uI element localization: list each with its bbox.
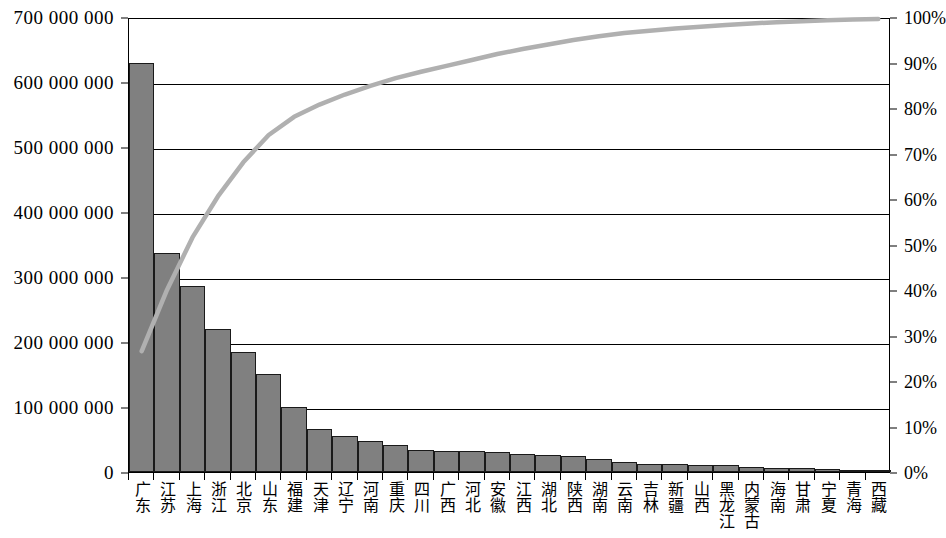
y-left-tick xyxy=(121,473,128,474)
bar xyxy=(586,459,611,472)
bar xyxy=(358,441,383,472)
x-axis-tick xyxy=(331,473,332,480)
x-axis-tick xyxy=(738,473,739,480)
bar xyxy=(485,452,510,472)
y-left-tick-label: 500 000 000 xyxy=(14,137,115,159)
x-axis-tick xyxy=(357,473,358,480)
bar xyxy=(815,469,840,472)
x-axis-tick xyxy=(687,473,688,480)
x-axis-tick xyxy=(407,473,408,480)
bar xyxy=(764,468,789,472)
bar xyxy=(383,445,408,472)
y-left-tick xyxy=(121,83,128,84)
bar xyxy=(510,454,535,472)
y-right-tick-label: 40% xyxy=(904,281,937,302)
bar xyxy=(332,436,357,472)
y-right-tick-label: 30% xyxy=(904,326,937,347)
y-left-tick-label: 100 000 000 xyxy=(14,397,115,419)
bar xyxy=(307,429,332,472)
bars-layer xyxy=(129,19,889,472)
y-left-tick-label: 400 000 000 xyxy=(14,202,115,224)
x-axis-tick xyxy=(865,473,866,480)
y-left-tick-label: 200 000 000 xyxy=(14,332,115,354)
y-axis-left: 0100 000 000200 000 000300 000 000400 00… xyxy=(0,0,128,493)
y-right-tick-label: 60% xyxy=(904,190,937,211)
x-axis-tick xyxy=(484,473,485,480)
y-right-tick-label: 100% xyxy=(904,8,946,29)
y-right-tick xyxy=(890,427,897,428)
bar xyxy=(459,451,484,472)
x-axis-tick xyxy=(839,473,840,480)
bar xyxy=(408,450,433,472)
x-axis-tick xyxy=(280,473,281,480)
bar xyxy=(866,470,891,472)
bar xyxy=(637,464,662,472)
y-right-tick xyxy=(890,154,897,155)
x-axis-ticks xyxy=(128,473,890,481)
y-right-tick-label: 90% xyxy=(904,53,937,74)
y-left-tick xyxy=(121,278,128,279)
x-axis-tick xyxy=(788,473,789,480)
bar xyxy=(662,464,687,472)
bar xyxy=(713,465,738,472)
bar xyxy=(205,329,230,472)
y-left-tick-label: 700 000 000 xyxy=(14,7,115,29)
bar xyxy=(739,467,764,472)
y-left-tick xyxy=(121,408,128,409)
y-right-tick xyxy=(890,245,897,246)
x-axis-tick xyxy=(255,473,256,480)
y-right-tick-label: 80% xyxy=(904,99,937,120)
y-right-tick xyxy=(890,336,897,337)
x-axis-tick xyxy=(611,473,612,480)
bar xyxy=(180,286,205,472)
bar xyxy=(688,465,713,472)
y-left-tick xyxy=(121,148,128,149)
y-left-tick-label: 300 000 000 xyxy=(14,267,115,289)
y-left-tick xyxy=(121,18,128,19)
bar xyxy=(154,253,179,472)
bar xyxy=(789,468,814,472)
y-right-tick-label: 20% xyxy=(904,372,937,393)
y-left-tick xyxy=(121,213,128,214)
bar xyxy=(256,374,281,472)
y-right-tick xyxy=(890,200,897,201)
y-right-tick xyxy=(890,63,897,64)
x-axis-tick xyxy=(636,473,637,480)
y-left-tick-label: 0 xyxy=(104,462,114,484)
y-right-tick-label: 0% xyxy=(904,463,928,484)
bar xyxy=(434,451,459,472)
y-left-tick xyxy=(121,343,128,344)
x-axis-tick xyxy=(560,473,561,480)
x-axis-tick xyxy=(763,473,764,480)
y-left-tick-label: 600 000 000 xyxy=(14,72,115,94)
y-right-tick xyxy=(890,291,897,292)
bar xyxy=(231,352,256,472)
bar xyxy=(129,63,154,473)
y-axis-right: 0%10%20%30%40%50%60%70%80%90%100% xyxy=(890,0,934,493)
y-right-tick xyxy=(890,18,897,19)
y-right-tick xyxy=(890,382,897,383)
x-axis-tick xyxy=(534,473,535,480)
y-right-tick xyxy=(890,473,897,474)
y-right-tick xyxy=(890,109,897,110)
plot-area xyxy=(128,18,890,473)
x-axis-labels: 广东江苏上海浙江北京山东福建天津辽宁河南重庆四川广西河北安徽江西湖北陕西湖南云南… xyxy=(128,481,890,538)
bar xyxy=(840,470,865,472)
bar xyxy=(561,456,586,472)
y-right-tick-label: 10% xyxy=(904,417,937,438)
bar xyxy=(535,455,560,472)
x-axis-tick xyxy=(306,473,307,480)
x-axis-tick xyxy=(382,473,383,480)
x-axis-tick xyxy=(179,473,180,480)
x-axis-tick xyxy=(585,473,586,480)
x-axis-tick xyxy=(433,473,434,480)
x-axis-tick xyxy=(230,473,231,480)
x-axis-tick xyxy=(204,473,205,480)
y-right-tick-label: 70% xyxy=(904,144,937,165)
bar xyxy=(612,462,637,472)
x-axis-tick xyxy=(128,473,129,480)
y-right-tick-label: 50% xyxy=(904,235,937,256)
x-axis-tick xyxy=(509,473,510,480)
x-axis-tick xyxy=(814,473,815,480)
